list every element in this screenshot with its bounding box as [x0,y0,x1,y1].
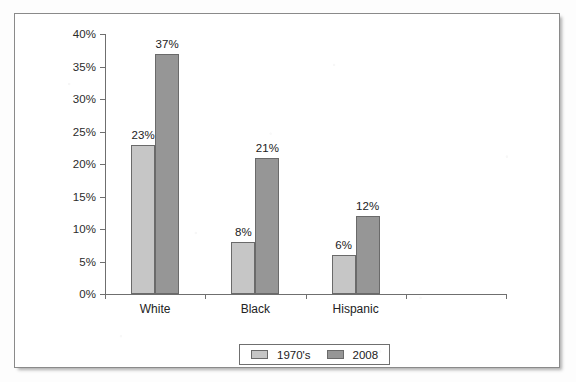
legend-item-1970s: 1970's [251,349,311,361]
x-axis-tick [205,294,206,299]
x-axis-tick [406,294,407,299]
y-axis-tick [100,262,105,263]
bar-hispanic-0[interactable] [332,255,356,294]
bar-value-label: 8% [235,226,252,238]
bar-value-label: 21% [256,142,279,154]
y-axis-tick [100,99,105,100]
x-axis-tick [306,294,307,299]
y-axis-tick [100,34,105,35]
legend-swatch-icon-1970s [251,350,268,359]
x-axis-category-label: White [140,302,171,316]
y-axis-tick [100,229,105,230]
y-axis-tick-label: 35% [73,61,96,73]
bar-value-label: 23% [132,129,155,141]
legend-label-1970s: 1970's [277,349,311,361]
y-axis-tick-label: 0% [79,288,96,300]
y-axis-tick-label: 40% [73,28,96,40]
y-axis-tick [100,197,105,198]
x-axis-category-label: Hispanic [333,302,379,316]
chart-legend: 1970's 2008 [239,344,390,365]
y-axis-tick [100,164,105,165]
bar-value-label: 12% [356,200,379,212]
x-axis-tick [506,294,507,299]
legend-swatch-icon-2008 [327,350,344,359]
bar-black-0[interactable] [231,242,255,294]
y-axis-tick-label: 5% [79,256,96,268]
y-axis-tick-label: 10% [73,223,96,235]
y-axis-tick-label: 30% [73,93,96,105]
legend-item-2008: 2008 [327,349,379,361]
y-axis-tick-label: 20% [73,158,96,170]
y-axis-tick [100,132,105,133]
y-axis-tick-label: 25% [73,126,96,138]
bar-white-1[interactable] [155,54,179,295]
chart-frame: 0%5%10%15%20%25%30%35%40% 23%37%8%21%6%1… [14,13,560,368]
x-axis-category-label: Black [241,302,270,316]
plot-area: 0%5%10%15%20%25%30%35%40% 23%37%8%21%6%1… [105,34,506,294]
y-axis-tick-label: 15% [73,191,96,203]
x-axis-tick [105,294,106,299]
bar-value-label: 37% [156,38,179,50]
legend-label-2008: 2008 [353,349,379,361]
y-axis-line [105,34,106,295]
bar-black-1[interactable] [255,158,279,295]
bar-value-label: 6% [335,239,352,251]
y-axis-tick [100,67,105,68]
bar-hispanic-1[interactable] [356,216,380,294]
bar-white-0[interactable] [131,145,155,295]
